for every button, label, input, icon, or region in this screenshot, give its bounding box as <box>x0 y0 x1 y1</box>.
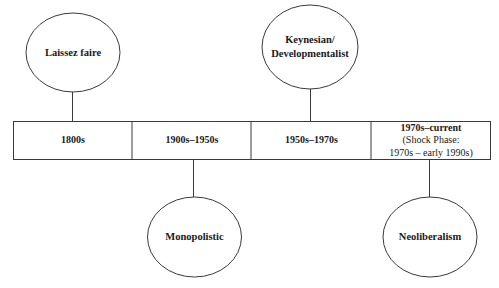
period-sublabel-line2: 1970s – early 1990s) <box>389 147 473 160</box>
phase-label-laissez-faire: Laissez faire <box>26 13 120 92</box>
phase-label-keynesian-developmentalist: Keynesian/ Developmentalist <box>262 5 358 89</box>
phase-label-monopolistic: Monopolistic <box>147 197 242 277</box>
timeline-diagram: Laissez faire Monopolistic Keynesian/ De… <box>0 0 499 288</box>
period-label: 1950s–1970s <box>285 134 338 147</box>
period-sublabel-line1: (Shock Phase: <box>403 134 460 147</box>
phase-label-neoliberalism: Neoliberalism <box>383 197 477 277</box>
period-cell-1800s: 1800s <box>14 122 132 159</box>
period-label: 1970s–current <box>401 122 462 135</box>
period-label: 1900s–1950s <box>166 134 219 147</box>
period-cell-1970s-current: 1970s–current (Shock Phase: 1970s – earl… <box>372 122 490 159</box>
period-label: 1800s <box>61 134 85 147</box>
period-cell-1950s-1970s: 1950s–1970s <box>252 122 371 159</box>
period-cell-1900s-1950s: 1900s–1950s <box>133 122 251 159</box>
